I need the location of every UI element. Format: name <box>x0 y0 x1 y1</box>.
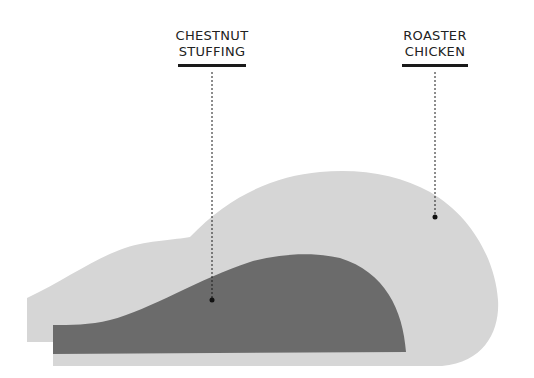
stuffing-marker-dot <box>210 298 215 303</box>
label-underline <box>178 64 246 67</box>
label-line-1: CHESTNUT <box>172 28 252 44</box>
label-roaster-chicken: ROASTER CHICKEN <box>395 28 475 67</box>
chicken-marker-dot <box>433 215 438 220</box>
label-underline <box>402 64 468 67</box>
label-line-2: CHICKEN <box>395 44 475 60</box>
label-chestnut-stuffing: CHESTNUT STUFFING <box>172 28 252 67</box>
label-line-2: STUFFING <box>172 44 252 60</box>
label-line-1: ROASTER <box>395 28 475 44</box>
